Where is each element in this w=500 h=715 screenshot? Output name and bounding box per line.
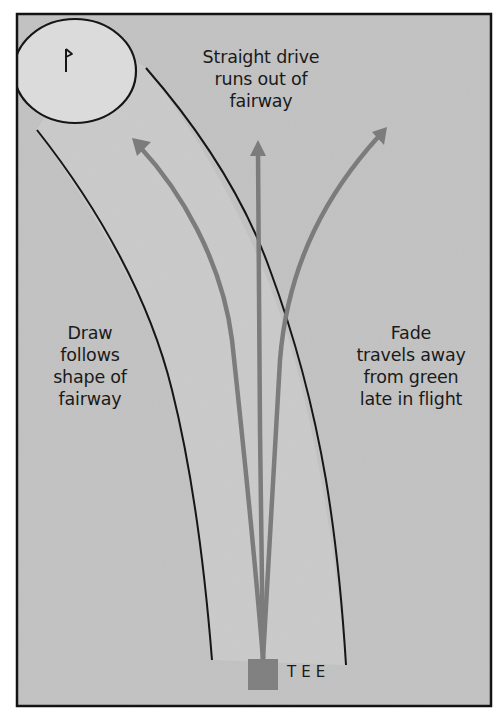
draw-label-line: Draw [35, 322, 145, 344]
draw-label: Draw follows shape of fairway [35, 322, 145, 410]
fade-label-line: travels away [346, 344, 476, 366]
straight-drive-label: Straight drive runs out of fairway [186, 46, 336, 112]
straight-label-line: runs out of [186, 68, 336, 90]
fade-label-line: late in flight [346, 388, 476, 410]
tee-label: TEE [287, 663, 330, 681]
straight-label-line: Straight drive [186, 46, 336, 68]
fade-label: Fade travels away from green late in fli… [346, 322, 476, 410]
fade-label-line: from green [346, 366, 476, 388]
draw-label-line: fairway [35, 388, 145, 410]
draw-label-line: follows [35, 344, 145, 366]
golf-shot-diagram: Straight drive runs out of fairway Draw … [0, 0, 500, 715]
draw-label-line: shape of [35, 366, 145, 388]
fade-label-line: Fade [346, 322, 476, 344]
straight-label-line: fairway [186, 90, 336, 112]
